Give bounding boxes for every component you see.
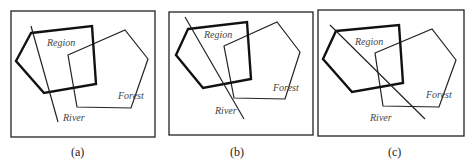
diagram-canvas: Region Forest River (a) Region Forest Ri… [0, 0, 471, 165]
panel-b: Region Forest River (b) [169, 12, 313, 159]
panel-c: Region Forest River (c) [318, 10, 464, 159]
river-label: River [214, 105, 237, 116]
river-label: River [369, 112, 392, 123]
caption-c: (c) [388, 145, 401, 159]
caption-b: (b) [230, 145, 244, 159]
forest-label: Forest [117, 90, 144, 101]
region-label: Region [203, 29, 232, 40]
forest-label: Forest [272, 82, 299, 93]
region-label: Region [46, 37, 75, 48]
region-label: Region [354, 36, 383, 47]
caption-a: (a) [71, 145, 84, 159]
river-label: River [62, 112, 85, 123]
forest-label: Forest [425, 89, 452, 100]
panel-a: Region Forest River (a) [11, 11, 155, 159]
